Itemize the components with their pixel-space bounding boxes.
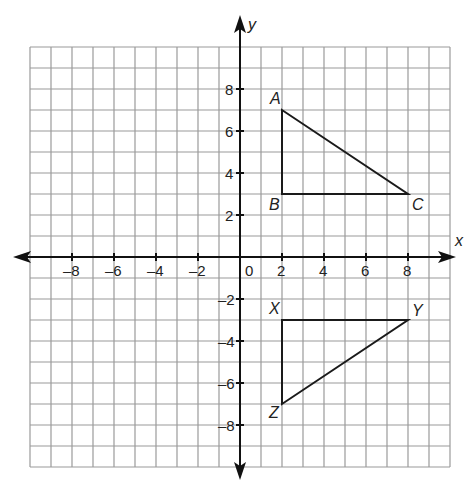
x-tick-label: –8 bbox=[63, 262, 80, 279]
y-tick-label: 6 bbox=[225, 123, 233, 140]
vertex-label-y: Y bbox=[412, 302, 424, 319]
vertex-label-a: A bbox=[269, 90, 281, 107]
x-tick-label: 4 bbox=[319, 262, 327, 279]
x-tick-label: –4 bbox=[147, 262, 164, 279]
y-tick-label: 8 bbox=[225, 81, 233, 98]
labels: yx–8–6–4–2246808642–2–4–6–8ABCXYZ bbox=[63, 16, 464, 434]
vertex-label-x: X bbox=[268, 300, 281, 317]
vertex-label-c: C bbox=[412, 196, 424, 213]
x-tick-label: –2 bbox=[189, 262, 206, 279]
origin-label: 0 bbox=[245, 262, 253, 279]
y-axis-label: y bbox=[247, 16, 257, 33]
y-tick-label: –6 bbox=[218, 375, 235, 392]
y-tick-label: –8 bbox=[218, 417, 235, 434]
x-tick-label: 6 bbox=[361, 262, 369, 279]
coordinate-plane: yx–8–6–4–2246808642–2–4–6–8ABCXYZ bbox=[0, 0, 466, 481]
vertex-label-z: Z bbox=[268, 404, 280, 421]
axes bbox=[13, 15, 456, 480]
y-tick-label: –2 bbox=[218, 291, 235, 308]
vertex-label-b: B bbox=[269, 196, 280, 213]
x-tick-label: 2 bbox=[277, 262, 285, 279]
x-tick-label: –6 bbox=[105, 262, 122, 279]
x-tick-label: 8 bbox=[403, 262, 411, 279]
y-tick-label: 2 bbox=[225, 207, 233, 224]
y-tick-label: –4 bbox=[218, 333, 235, 350]
x-axis-label: x bbox=[454, 232, 464, 249]
y-tick-label: 4 bbox=[225, 165, 233, 182]
